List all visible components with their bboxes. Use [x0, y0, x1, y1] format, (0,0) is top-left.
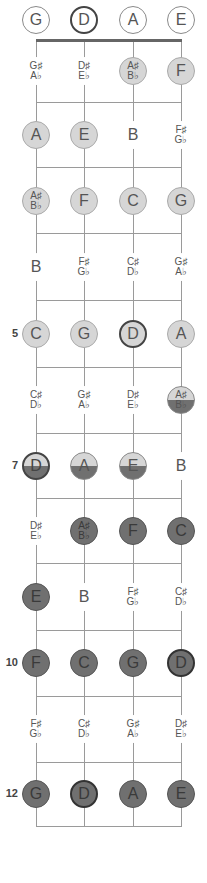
- fret-note: G: [167, 187, 195, 215]
- fret-note: A: [70, 452, 98, 480]
- note-name: D: [78, 786, 90, 802]
- fret-note: A♯B♭: [167, 386, 195, 414]
- open-string-note: G: [22, 6, 50, 34]
- flat-name: G♭: [127, 597, 140, 607]
- flat-name: B♭: [175, 400, 187, 410]
- fret-note: D♯E♭: [70, 57, 98, 85]
- fret-note: A♯B♭: [22, 187, 50, 215]
- fret-note: B: [119, 121, 147, 149]
- fret-note: C: [119, 187, 147, 215]
- flat-name: B♭: [127, 71, 139, 81]
- fret-note: A: [167, 320, 195, 348]
- open-string-note: E: [167, 6, 195, 34]
- flat-name: E♭: [78, 71, 90, 81]
- flat-name: G♭: [30, 729, 43, 739]
- flat-name: D♭: [127, 267, 139, 277]
- flat-name: A♭: [78, 400, 90, 410]
- fret-line: [36, 826, 182, 827]
- note-name: C: [175, 523, 187, 539]
- flat-name: A♭: [175, 267, 187, 277]
- fret-note: G: [22, 780, 50, 808]
- fret-note: B: [70, 583, 98, 611]
- flat-name: D♭: [175, 597, 187, 607]
- flat-name: E♭: [30, 531, 42, 541]
- fret-note: B: [22, 253, 50, 281]
- note-name: F: [176, 63, 186, 79]
- fret-note: C♯D♭: [119, 253, 147, 281]
- fret-note: C♯D♭: [167, 583, 195, 611]
- fret-note: G♯A♭: [22, 57, 50, 85]
- fret-note: E: [167, 780, 195, 808]
- note-name: C: [127, 193, 139, 209]
- fret-note: F: [22, 649, 50, 677]
- note-name: B: [31, 259, 42, 275]
- note-name: A: [128, 786, 139, 802]
- fret-note: D♯E♭: [22, 517, 50, 545]
- note-name: F: [79, 193, 89, 209]
- fret-note: F: [167, 57, 195, 85]
- fret-note: D: [167, 649, 195, 677]
- flat-name: G♭: [175, 135, 188, 145]
- note-name: A: [176, 326, 187, 342]
- flat-name: B♭: [78, 531, 90, 541]
- fret-number-label: 5: [2, 327, 18, 339]
- fret-note: F♯G♭: [167, 121, 195, 149]
- fret-note: G♯A♭: [70, 386, 98, 414]
- note-name: B: [128, 127, 139, 143]
- note-name: G: [30, 12, 42, 28]
- note-name: E: [176, 12, 187, 28]
- fret-note: F♯G♭: [119, 583, 147, 611]
- fret-line: [36, 233, 182, 234]
- fret-note: F♯G♭: [70, 253, 98, 281]
- fret-note: G: [70, 320, 98, 348]
- fret-line: [36, 102, 182, 103]
- flat-name: E♭: [127, 400, 139, 410]
- note-name: E: [31, 589, 42, 605]
- open-string-note: D: [70, 6, 98, 34]
- note-name: C: [30, 326, 42, 342]
- fret-note: A♯B♭: [70, 517, 98, 545]
- flat-name: A♭: [30, 71, 42, 81]
- fret-note: G♯A♭: [167, 253, 195, 281]
- fret-note: B: [167, 452, 195, 480]
- fret-note: D: [70, 780, 98, 808]
- note-name: D: [78, 12, 90, 28]
- fret-note: E: [119, 452, 147, 480]
- fret-line: [36, 300, 182, 301]
- flat-name: D♭: [30, 400, 42, 410]
- fret-line: [36, 762, 182, 763]
- fret-note: A: [119, 780, 147, 808]
- note-name: G: [78, 326, 90, 342]
- fret-note: D: [119, 320, 147, 348]
- fret-line: [36, 167, 182, 168]
- flat-name: A♭: [127, 729, 139, 739]
- note-name: D: [30, 458, 42, 474]
- fret-note: F: [70, 187, 98, 215]
- note-name: F: [128, 523, 138, 539]
- note-name: C: [78, 655, 90, 671]
- flat-name: G♭: [78, 267, 91, 277]
- note-name: E: [176, 786, 187, 802]
- fret-note: A♯B♭: [119, 57, 147, 85]
- note-name: A: [79, 458, 90, 474]
- fret-line: [36, 367, 182, 368]
- fret-note: D: [22, 452, 50, 480]
- note-name: G: [127, 655, 139, 671]
- fret-note: C: [167, 517, 195, 545]
- fret-line: [36, 696, 182, 697]
- fret-note: A: [22, 121, 50, 149]
- open-string-note: A: [119, 6, 147, 34]
- note-name: E: [128, 458, 139, 474]
- fret-number-label: 10: [2, 656, 18, 668]
- fret-note: C: [70, 649, 98, 677]
- note-name: A: [128, 12, 139, 28]
- fret-note: G♯A♭: [119, 715, 147, 743]
- fret-note: E: [70, 121, 98, 149]
- note-name: D: [175, 655, 187, 671]
- fret-note: F: [119, 517, 147, 545]
- note-name: E: [79, 127, 90, 143]
- fret-note: F♯G♭: [22, 715, 50, 743]
- fret-note: E: [22, 583, 50, 611]
- flat-name: D♭: [78, 729, 90, 739]
- note-name: G: [175, 193, 187, 209]
